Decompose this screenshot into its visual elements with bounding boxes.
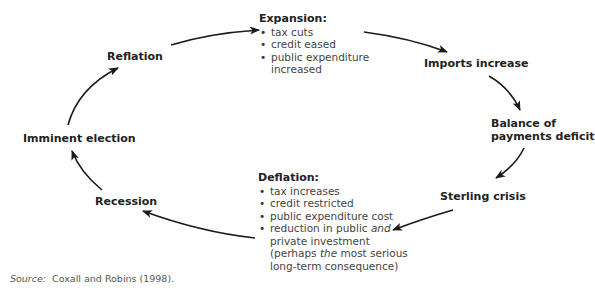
node-recession: Recession	[95, 195, 157, 208]
deflation-item-continuation: (perhaps the most serious	[258, 247, 408, 260]
arrow-recession-to-election	[72, 151, 102, 190]
expansion-item: public expenditure	[259, 51, 369, 64]
deflation-item: tax increases	[258, 185, 408, 198]
source-citation: Source: Coxall and Robins (1998).	[10, 273, 174, 284]
deflation-item-continuation: private investment	[258, 235, 408, 248]
deflation-heading: Deflation:	[258, 172, 408, 185]
arrow-reflation-to-expansion	[171, 30, 259, 45]
deflation-item-continuation: long-term consequence)	[258, 260, 408, 273]
source-label: Source:	[10, 273, 46, 284]
node-imminent-election: Imminent election	[23, 132, 136, 145]
node-imports-increase: Imports increase	[424, 57, 528, 70]
arrow-imports-to-balance	[489, 76, 520, 110]
expansion-item: credit eased	[259, 38, 369, 51]
node-sterling-crisis: Sterling crisis	[440, 190, 526, 203]
deflation-item-text: reduction in public	[270, 222, 371, 234]
deflation-item: credit restricted	[258, 197, 408, 210]
expansion-item: tax cuts	[259, 26, 369, 39]
expansion-heading: Expansion:	[259, 13, 369, 26]
deflation-item-text: (perhaps	[270, 247, 320, 259]
deflation-item: public expenditure cost	[258, 210, 408, 223]
deflation-box: Deflation: tax increases credit restrict…	[258, 172, 408, 272]
expansion-item-continuation: increased	[259, 63, 369, 76]
expansion-box: Expansion: tax cuts credit eased public …	[259, 13, 369, 76]
balance-line-1: Balance of	[491, 117, 595, 130]
arrow-expansion-to-imports	[364, 32, 447, 52]
deflation-list: tax increases credit restricted public e…	[258, 185, 408, 235]
arrow-balance-to-sterling	[496, 148, 524, 178]
arrow-deflation-to-recession	[143, 211, 255, 238]
deflation-item: reduction in public and	[258, 222, 408, 235]
expansion-list: tax cuts credit eased public expenditure	[259, 26, 369, 64]
node-balance-of-payments: Balance of payments deficit	[491, 117, 595, 143]
node-reflation: Reflation	[107, 50, 163, 63]
balance-line-2: payments deficit	[491, 130, 595, 143]
deflation-item-text: most serious	[337, 247, 408, 259]
deflation-item-emphasis: the	[320, 247, 337, 259]
source-text: Coxall and Robins (1998).	[52, 273, 174, 284]
arrow-election-to-reflation	[68, 68, 118, 125]
deflation-item-emphasis: and	[371, 222, 391, 234]
